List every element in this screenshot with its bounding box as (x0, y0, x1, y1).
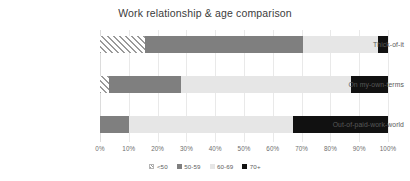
category-label: Thick-of-it (310, 41, 404, 48)
bar-segment-<50[interactable] (100, 36, 145, 53)
bar-segment-60-69[interactable] (129, 116, 293, 133)
x-tick-label: 80% (324, 145, 337, 152)
x-tick-label: 60% (266, 145, 279, 152)
x-tick-label: 50% (238, 145, 251, 152)
chart-container: Work relationship & age comparison Thick… (0, 0, 410, 181)
legend-swatch-icon (177, 164, 182, 169)
x-tick-label: 0% (95, 145, 104, 152)
legend-swatch-icon (149, 164, 154, 169)
x-tick-label: 30% (180, 145, 193, 152)
category-label: On my-own-terms (310, 81, 404, 88)
x-tick-label: 100% (380, 145, 397, 152)
legend-item-70+[interactable]: 70+ (242, 163, 260, 170)
bar-segment-<50[interactable] (100, 76, 109, 93)
legend-label: 60-69 (217, 163, 233, 170)
bar-segment-50-59[interactable] (145, 36, 303, 53)
legend-item-<50[interactable]: <50 (149, 163, 167, 170)
legend-swatch-icon (210, 164, 215, 169)
legend-item-50-59[interactable]: 50-59 (177, 163, 201, 170)
legend-item-60-69[interactable]: 60-69 (210, 163, 234, 170)
x-axis-tick-labels: 0%10%20%30%40%50%60%70%80%90%100% (100, 145, 388, 157)
chart-legend: <5050-5960-6970+ (0, 163, 410, 170)
legend-label: <50 (157, 163, 168, 170)
x-tick-label: 90% (353, 145, 366, 152)
legend-label: 50-59 (184, 163, 200, 170)
x-tick-label: 10% (122, 145, 135, 152)
category-label: Out-of-paid-work-world (310, 121, 404, 128)
legend-swatch-icon (242, 164, 247, 169)
x-tick-label: 70% (295, 145, 308, 152)
x-tick-label: 40% (209, 145, 222, 152)
bar-segment-50-59[interactable] (100, 116, 129, 133)
legend-label: 70+ (250, 163, 261, 170)
bar-segment-50-59[interactable] (109, 76, 181, 93)
x-tick-label: 20% (151, 145, 164, 152)
chart-title: Work relationship & age comparison (0, 7, 410, 19)
